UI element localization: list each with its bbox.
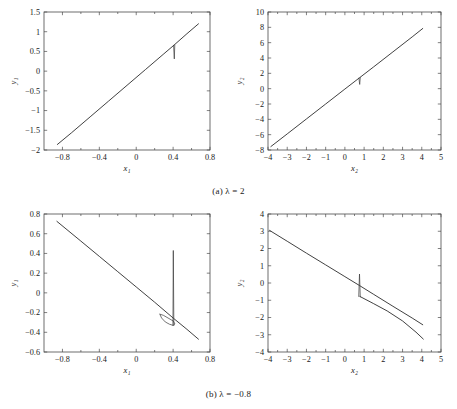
- x-tick-label: −4: [264, 153, 273, 162]
- x-tick-label: 0: [343, 153, 347, 162]
- plot-svg: −0.8−0.400.40.8−2−1.5−1−0.500.511.5x₁y₁: [0, 0, 228, 186]
- y-tick-label: 6: [260, 39, 264, 48]
- y-tick-label: −1: [31, 106, 40, 115]
- y-tick-label: −2: [255, 100, 264, 109]
- y-tick-label: −0.6: [25, 348, 40, 357]
- y-tick-label: −4: [255, 348, 264, 357]
- y-axis-label: y₁: [8, 78, 18, 86]
- x-tick-label: −0.8: [55, 153, 70, 162]
- y-tick-label: 10: [256, 8, 264, 17]
- plot-area: [44, 12, 210, 150]
- x-tick-label: −2: [302, 355, 311, 364]
- x-tick-label: 2: [381, 355, 385, 364]
- y-tick-label: 0.2: [30, 269, 40, 278]
- plot-panel-top-left: −0.8−0.400.40.8−2−1.5−1−0.500.511.5x₁y₁: [0, 0, 228, 186]
- x-tick-label: 5: [439, 153, 443, 162]
- y-tick-label: −0.4: [25, 328, 40, 337]
- y-tick-label: −1: [255, 296, 264, 305]
- x-tick-label: 0.4: [168, 153, 178, 162]
- x-tick-label: −4: [264, 355, 273, 364]
- x-tick-label: −3: [283, 153, 292, 162]
- y-axis-label: y₂: [234, 78, 244, 86]
- y-tick-label: 0: [260, 85, 264, 94]
- y-tick-label: 1: [36, 28, 40, 37]
- y-tick-label: −0.2: [25, 308, 40, 317]
- plot-area: [268, 12, 441, 150]
- x-tick-label: 5: [439, 355, 443, 364]
- y-tick-label: −1.5: [25, 126, 40, 135]
- y-tick-label: 0: [36, 67, 40, 76]
- x-tick-label: 0: [134, 355, 138, 364]
- y-tick-label: 1: [260, 262, 264, 271]
- x-tick-label: 3: [401, 355, 405, 364]
- x-axis-label: x₁: [123, 163, 131, 173]
- x-tick-label: −0.4: [92, 153, 107, 162]
- x-tick-label: 1: [362, 355, 366, 364]
- x-tick-label: 0: [343, 355, 347, 364]
- x-tick-label: −3: [283, 355, 292, 364]
- y-tick-label: −0.5: [25, 87, 40, 96]
- x-tick-label: 4: [420, 153, 424, 162]
- y-tick-label: −2: [255, 313, 264, 322]
- x-tick-label: −1: [321, 153, 330, 162]
- x-tick-label: 0.8: [205, 355, 215, 364]
- y-tick-label: −3: [255, 331, 264, 340]
- x-tick-label: 4: [420, 355, 424, 364]
- y-tick-label: −2: [31, 146, 40, 155]
- plot-svg: −4−3−2−1012345−4−3−2−101234x₂y₂: [228, 202, 457, 388]
- x-axis-label: x₁: [123, 365, 131, 375]
- y-tick-label: −8: [255, 146, 264, 155]
- y-tick-label: 0.8: [30, 210, 40, 219]
- x-tick-label: 3: [401, 153, 405, 162]
- y-tick-label: 0.5: [30, 47, 40, 56]
- plot-svg: −4−3−2−1012345−8−6−4−20246810x₂y₂: [228, 0, 457, 186]
- x-tick-label: 2: [381, 153, 385, 162]
- x-axis-label: x₂: [350, 163, 358, 173]
- x-axis-label: x₂: [350, 365, 358, 375]
- plot-panel-bottom-left: −0.8−0.400.40.8−0.6−0.4−0.200.20.40.60.8…: [0, 202, 228, 388]
- y-tick-label: −6: [255, 131, 264, 140]
- y-tick-label: 0.6: [30, 230, 40, 239]
- x-tick-label: 0.8: [205, 153, 215, 162]
- x-tick-label: −0.4: [92, 355, 107, 364]
- y-axis-label: y₂: [234, 280, 244, 288]
- plot-panel-top-right: −4−3−2−1012345−8−6−4−20246810x₂y₂: [228, 0, 457, 186]
- subfigure-caption-b: (b) λ = −0.8: [0, 389, 457, 399]
- y-tick-label: 4: [260, 210, 264, 219]
- y-tick-label: 8: [260, 23, 264, 32]
- y-tick-label: 0: [260, 279, 264, 288]
- y-tick-label: 4: [260, 54, 264, 63]
- y-tick-label: 1.5: [30, 8, 40, 17]
- x-tick-label: 1: [362, 153, 366, 162]
- plot-area: [44, 214, 210, 352]
- x-tick-label: 0: [134, 153, 138, 162]
- x-tick-label: 0.4: [168, 355, 178, 364]
- x-tick-label: −2: [302, 153, 311, 162]
- y-tick-label: 3: [260, 227, 264, 236]
- y-axis-label: y₁: [8, 280, 18, 288]
- figure-container: −0.8−0.400.40.8−2−1.5−1−0.500.511.5x₁y₁ …: [0, 0, 457, 409]
- y-tick-label: 2: [260, 69, 264, 78]
- x-tick-label: −0.8: [55, 355, 70, 364]
- y-tick-label: 2: [260, 244, 264, 253]
- plot-panel-bottom-right: −4−3−2−1012345−4−3−2−101234x₂y₂: [228, 202, 457, 388]
- x-tick-label: −1: [321, 355, 330, 364]
- y-tick-label: 0.4: [30, 249, 40, 258]
- y-tick-label: 0: [36, 289, 40, 298]
- y-tick-label: −4: [255, 115, 264, 124]
- plot-svg: −0.8−0.400.40.8−0.6−0.4−0.200.20.40.60.8…: [0, 202, 228, 388]
- subfigure-caption-a: (a) λ = 2: [0, 186, 457, 196]
